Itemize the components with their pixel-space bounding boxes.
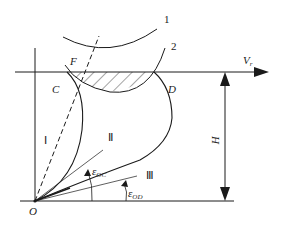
point-d-label: D <box>167 83 176 95</box>
angle-arrow-oc <box>84 169 91 176</box>
angle-oc-label: εOC <box>92 165 106 179</box>
origin-point <box>33 199 36 202</box>
point-c-label: C <box>52 83 60 95</box>
arc-1 <box>63 29 157 48</box>
velocity-label: Vr <box>243 54 253 68</box>
angle-od-label: εOD <box>128 187 142 201</box>
diagram-canvas: 1 2 F C D O Vr H Ⅰ Ⅱ Ⅲ εOC εOD <box>0 0 283 228</box>
arc-2-label: 2 <box>171 40 177 52</box>
velocity-arrowhead <box>254 67 269 77</box>
height-arrow-bottom <box>220 187 230 201</box>
arc-1-label: 1 <box>164 13 170 25</box>
region-iii-label: Ⅲ <box>146 169 154 181</box>
height-label: H <box>210 135 222 145</box>
region-i-label: Ⅰ <box>44 134 47 146</box>
origin-label: O <box>29 205 37 217</box>
angle-arrow-od <box>121 180 128 187</box>
point-f-label: F <box>69 55 77 67</box>
region-ii-label: Ⅱ <box>108 131 113 143</box>
height-arrow-top <box>220 72 230 86</box>
tangent-line-od <box>35 176 137 201</box>
